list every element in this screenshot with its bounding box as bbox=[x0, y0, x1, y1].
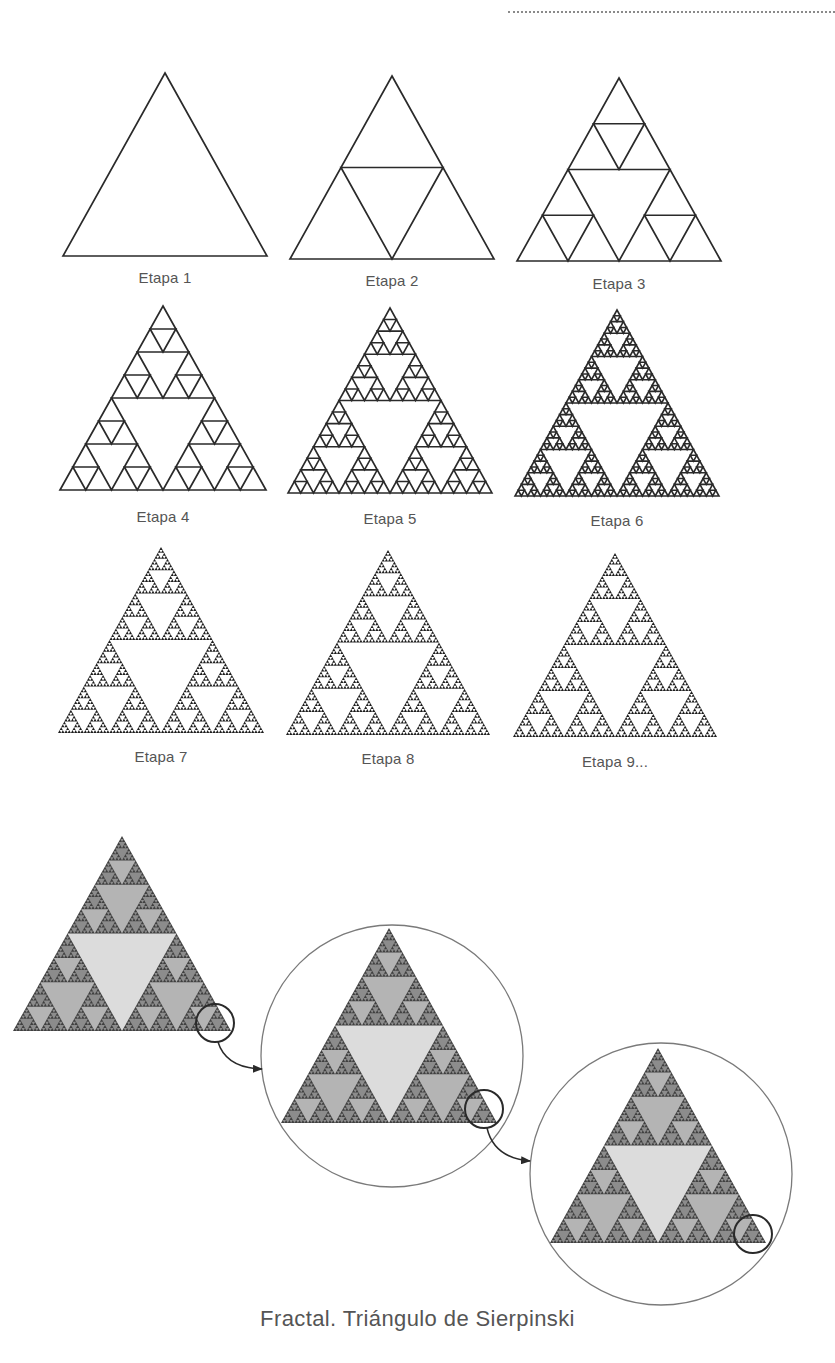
zoom-arrow-2 bbox=[487, 1128, 530, 1161]
self-similarity-zoom-diagram bbox=[0, 0, 835, 1363]
zoom-arrow-1 bbox=[218, 1042, 262, 1069]
figure-caption: Fractal. Triángulo de Sierpinski bbox=[0, 1306, 835, 1332]
gray-sierpinski-2 bbox=[281, 928, 497, 1123]
gray-sierpinski-1 bbox=[13, 836, 231, 1031]
gray-sierpinski-3 bbox=[550, 1048, 766, 1243]
